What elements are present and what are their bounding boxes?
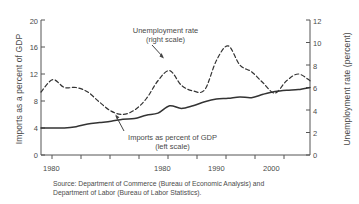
series-line-unemployment bbox=[41, 46, 310, 115]
y-tick-label-8: 8 bbox=[22, 97, 38, 106]
y2-tick-label-2: 2 bbox=[313, 129, 329, 138]
x-tick-label-1980: 1980 bbox=[43, 164, 67, 173]
y-tick-label-4: 4 bbox=[22, 124, 38, 133]
x-tick-label-1990: 1990 bbox=[208, 164, 232, 173]
x-tick-label-1985: 1980 bbox=[154, 164, 178, 173]
y2-tick-label-4: 4 bbox=[313, 107, 329, 116]
imports-annotation-line2: (left scale) bbox=[105, 142, 240, 151]
y2-tick-label-0: 0 bbox=[313, 151, 329, 160]
y2-tick-label-10: 10 bbox=[313, 39, 329, 48]
y-tick-label-12: 12 bbox=[22, 70, 38, 79]
imports-annotation: Imports as percent of GDP (left scale) bbox=[105, 133, 240, 151]
unemployment-annotation: Unemployment rate (right scale) bbox=[108, 26, 223, 44]
series-line-imports bbox=[41, 88, 310, 129]
unemployment-annotation-line1: Unemployment rate bbox=[108, 26, 223, 35]
y2-tick-label-8: 8 bbox=[313, 62, 329, 71]
unemployment-annotation-line2: (right scale) bbox=[108, 35, 223, 44]
imports-annotation-line1: Imports as percent of GDP bbox=[105, 133, 240, 142]
left-axis-ticks bbox=[41, 20, 45, 155]
x-tick-label-2000: 2000 bbox=[263, 164, 287, 173]
y2-tick-label-6: 6 bbox=[313, 84, 329, 93]
imports-annotation-arrow bbox=[115, 115, 124, 132]
y-tick-label-20: 20 bbox=[22, 17, 38, 26]
y-tick-label-0: 0 bbox=[22, 151, 38, 160]
y2-tick-label-12: 12 bbox=[313, 17, 329, 26]
source-note-line1: Source: Department of Commerce (Bureau o… bbox=[53, 179, 343, 188]
source-note: Source: Department of Commerce (Bureau o… bbox=[53, 179, 343, 197]
right-axis-title: Unemployment rate (percent) bbox=[342, 14, 352, 164]
source-note-line2: Department of Labor (Bureau of Labor Sta… bbox=[53, 188, 343, 197]
x-axis-ticks bbox=[52, 155, 284, 159]
unemployment-annotation-arrow bbox=[152, 45, 164, 59]
chart-figure: Imports as a percent of GDP Unemployment… bbox=[0, 0, 359, 204]
y-tick-label-16: 16 bbox=[22, 43, 38, 52]
left-axis-title: Imports as a percent of GDP bbox=[14, 14, 24, 164]
